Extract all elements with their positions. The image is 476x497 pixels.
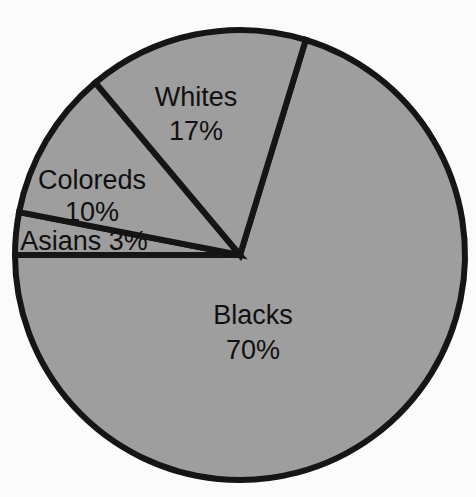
pie-label-whites-value: 17% [169,116,223,146]
pie-chart-svg: Whites 17% Coloreds 10% Asians 3% Blacks… [0,0,476,497]
pie-label-asians: Asians 3% [20,226,148,256]
pie-chart-figure: Whites 17% Coloreds 10% Asians 3% Blacks… [0,0,476,497]
pie-label-coloreds-value: 10% [65,197,119,227]
pie-label-blacks-name: Blacks [213,300,293,330]
pie-label-coloreds-name: Coloreds [38,165,146,195]
pie-label-blacks-value: 70% [226,335,280,365]
pie-label-whites-name: Whites [155,82,238,112]
